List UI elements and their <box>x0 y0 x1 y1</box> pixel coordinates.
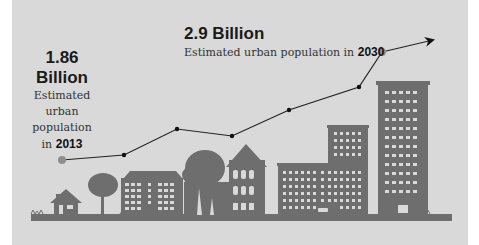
data-point <box>230 134 234 138</box>
desc-prefix: Estimated urban population in <box>184 46 358 59</box>
desc-line: population <box>30 120 94 136</box>
tall-tower <box>376 81 430 215</box>
desc-line-year: in 2013 <box>30 136 94 153</box>
data-point <box>357 85 361 89</box>
value-unit-2013: Billion <box>30 68 94 88</box>
desc-line: urban <box>30 104 94 120</box>
annotation-2030: 2.9 Billion Estimated urban population i… <box>184 24 384 61</box>
year-2013: 2013 <box>56 137 83 151</box>
gabled-townhouse <box>226 144 267 215</box>
year-2030: 2030 <box>358 45 385 59</box>
ground-strip <box>31 214 452 221</box>
desc-2030: Estimated urban population in 2030 <box>184 44 384 61</box>
data-point-2013 <box>58 156 66 164</box>
value-2013: 1.86 <box>30 48 94 68</box>
large-trees <box>182 150 229 215</box>
tree <box>88 173 118 215</box>
value-2030: 2.9 Billion <box>184 24 384 44</box>
desc-prefix: in <box>42 138 56 151</box>
desc-line: Estimated <box>30 88 94 104</box>
data-point <box>122 153 126 157</box>
mid-rise-building <box>277 125 369 215</box>
trend-arrow <box>382 40 433 52</box>
data-point <box>175 127 179 131</box>
annotation-2013: 1.86 Billion Estimated urban population … <box>30 48 94 153</box>
low-apartment-building <box>121 171 183 215</box>
small-house <box>50 189 82 215</box>
data-point <box>287 108 291 112</box>
